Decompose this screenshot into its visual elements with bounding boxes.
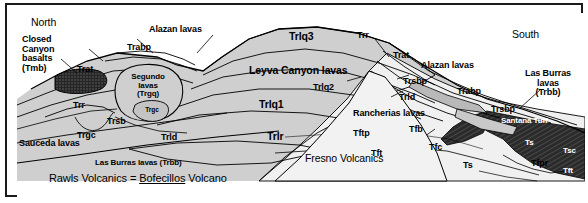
label-tft-left: Tft bbox=[371, 149, 382, 159]
label-trgc-inner: Trgc bbox=[135, 106, 169, 113]
label-las-burras-lavas-center: Las Burras lavas (Trbb) bbox=[95, 159, 182, 168]
label-sauceda-lavas: Sauceda lavas bbox=[19, 139, 80, 149]
label-alazan-lavas-right: Alazan lavas bbox=[421, 61, 474, 71]
label-tfpr: Tfpr bbox=[531, 159, 548, 169]
label-trlq2: Trlq2 bbox=[313, 83, 334, 93]
label-trabp-left: Trabp bbox=[127, 43, 151, 53]
cross-section-canvas: North South Closed Canyon basalts (Tmb) … bbox=[17, 13, 585, 197]
label-ts-right: Ts bbox=[525, 139, 534, 148]
label-trld-right: Trld bbox=[399, 93, 415, 103]
geologic-cross-section-figure: North South Closed Canyon basalts (Tmb) … bbox=[0, 0, 588, 203]
label-trsbp-upper: Trsbp bbox=[403, 77, 427, 87]
label-trat-left: Trat bbox=[77, 65, 93, 75]
caption-underlined: Bofecillos bbox=[139, 172, 185, 184]
label-trlr: Trlr bbox=[267, 131, 284, 142]
label-trat-right: Trat bbox=[393, 51, 409, 61]
caption-suffix: Volcano bbox=[185, 172, 226, 184]
label-leyva-canyon-lavas: Leyva Canyon lavas bbox=[249, 65, 348, 76]
label-rancherias-lavas: Rancherias lavas bbox=[353, 109, 425, 119]
label-alazan-lavas-left: Alazan lavas bbox=[149, 25, 202, 35]
label-tfc: Tfc bbox=[429, 143, 442, 153]
label-trsbp-lower: Trsbp bbox=[491, 105, 515, 115]
label-closed-canyon-basalts: Closed Canyon basalts (Tmb) bbox=[22, 35, 84, 74]
label-tftp: Tftp bbox=[353, 129, 370, 139]
label-tsc: Tsc bbox=[563, 147, 576, 156]
label-trsb: Trsb bbox=[107, 117, 126, 127]
label-santana-tuff: Santana Tuff bbox=[501, 117, 548, 126]
figure-caption: Rawls Volcanics = Bofecillos Volcano bbox=[49, 173, 227, 185]
label-trlq3: Trlq3 bbox=[289, 31, 314, 42]
label-segundo-lavas: Segundo lavas (Trgq) bbox=[121, 73, 175, 99]
label-tft-right: Tft bbox=[563, 167, 573, 176]
label-trabp-right: Trabp bbox=[457, 87, 481, 97]
label-ts-mid: Ts bbox=[463, 161, 473, 171]
caption-prefix: Rawls Volcanics = bbox=[49, 172, 139, 184]
label-south: South bbox=[512, 29, 539, 40]
label-trld-left: Trld bbox=[161, 133, 177, 143]
label-trlq1: Trlq1 bbox=[259, 99, 284, 110]
label-trr-left: Trr bbox=[73, 101, 85, 111]
label-north: North bbox=[31, 17, 56, 28]
label-las-burras-lavas-right: Las Burras lavas (Trbb) bbox=[517, 69, 579, 98]
label-tfb: Tfb bbox=[409, 125, 423, 135]
figure-frame: North South Closed Canyon basalts (Tmb) … bbox=[5, 3, 583, 197]
label-trr-right: Trr bbox=[357, 31, 369, 41]
